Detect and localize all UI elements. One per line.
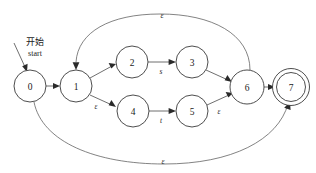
state-node-7-accepting[interactable]: 7: [273, 69, 310, 106]
state-label-1: 1: [74, 82, 79, 92]
nfa-canvas: 0 1 2 3 4 5 6 7: [0, 0, 316, 173]
arrowhead-2-3: [169, 59, 176, 65]
state-node-6[interactable]: 6: [230, 70, 264, 104]
state-label-3: 3: [190, 58, 195, 68]
state-label-2: 2: [130, 58, 135, 68]
state-node-3[interactable]: 3: [176, 46, 208, 78]
edge-label-top-epsilon: ε: [160, 11, 164, 20]
edge-1-to-2: [90, 63, 116, 78]
arrowhead-1-4: [109, 100, 116, 107]
state-node-0[interactable]: 0: [14, 70, 46, 102]
edge-label-2-3-s: s: [160, 67, 163, 76]
state-label-7: 7: [289, 83, 294, 93]
edge-path-1-4: [90, 95, 112, 105]
edge-4-to-5: [149, 108, 176, 114]
state-label-0: 0: [28, 82, 33, 92]
edge-label-5-6-epsilon: ε: [218, 107, 221, 116]
start-label-english: start: [28, 49, 43, 58]
arrowhead-0-1: [53, 83, 60, 89]
arrowhead-6-1: [73, 62, 80, 70]
state-label-6: 6: [245, 83, 250, 93]
edge-5-to-6-epsilon: [207, 92, 233, 105]
start-label-chinese: 开始: [26, 36, 44, 47]
state-node-5[interactable]: 5: [176, 95, 208, 127]
state-label-4: 4: [131, 107, 136, 117]
edge-label-1-4-epsilon: ε: [95, 102, 98, 111]
state-node-2[interactable]: 2: [116, 46, 148, 78]
edge-3-to-6: [206, 70, 232, 82]
edge-path-3-6: [206, 70, 228, 80]
start-arrow: [14, 43, 28, 72]
nfa-diagram: 0 1 2 3 4 5 6 7: [0, 0, 316, 173]
arrowhead-4-5: [169, 108, 176, 114]
edge-path-5-6: [207, 95, 229, 105]
state-label-5: 5: [190, 107, 195, 117]
edge-label-4-5-t: t: [160, 116, 163, 125]
edge-0-to-1: [46, 83, 60, 89]
edge-path-1-2: [90, 66, 112, 78]
state-node-4[interactable]: 4: [117, 95, 149, 127]
state-node-1[interactable]: 1: [60, 70, 92, 102]
start-arrow-path: [14, 43, 25, 67]
edge-2-to-3: [148, 59, 176, 65]
